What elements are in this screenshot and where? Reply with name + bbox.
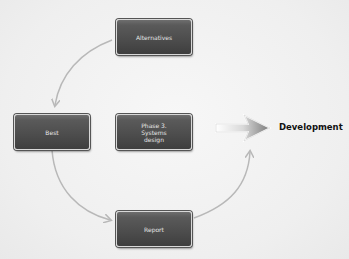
outcome-development-label: Development — [279, 122, 343, 132]
node-alternatives: Alternatives — [116, 19, 192, 55]
connector-report-to-development — [194, 152, 250, 218]
connector-alternatives-to-best — [55, 40, 112, 105]
phase-line-2: Systems — [124, 129, 184, 136]
node-report: Report — [116, 211, 192, 247]
node-phase-center: Phase 3. Systems design — [116, 114, 192, 150]
node-report-label: Report — [124, 226, 184, 233]
node-alternatives-label: Alternatives — [124, 34, 184, 41]
development-arrow-icon — [216, 115, 270, 141]
phase-line-1: Phase 3. — [124, 122, 184, 129]
node-phase-label: Phase 3. Systems design — [124, 122, 184, 143]
connector-best-to-report — [52, 150, 110, 220]
node-best: Best — [14, 114, 90, 150]
node-best-label: Best — [22, 129, 82, 136]
phase-line-3: design — [124, 136, 184, 143]
